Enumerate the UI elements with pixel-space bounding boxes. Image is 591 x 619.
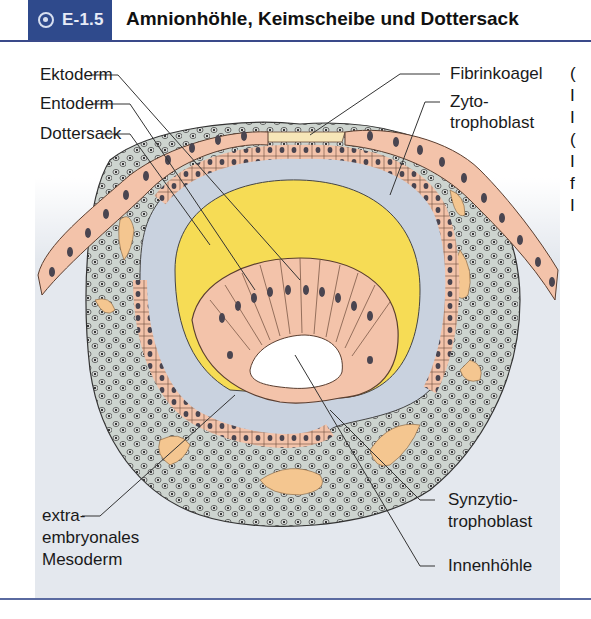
side-text-fragment: f [570,174,575,194]
label-zyto-trophoblast: trophoblast [450,113,534,133]
side-text-fragment: ( [570,130,576,150]
label-synzytio-trophoblast: trophoblast [448,512,532,532]
label-mesoderm: Mesoderm [42,550,122,570]
footer-divider [0,598,591,600]
label-ektoderm: Ektoderm [40,65,113,85]
label-entoderm: Entoderm [40,94,114,114]
fibrin-coagulum [265,132,345,142]
label-fibrinkoagel: Fibrinkoagel [450,64,543,84]
side-text-fragment: I [570,196,575,216]
side-text-fragment: I [570,108,575,128]
label-embryonales: embryonales [42,528,139,548]
label-synzytio: Synzytio- [448,490,518,510]
side-text-fragment: I [570,86,575,106]
side-text-fragment: I [570,152,575,172]
label-innenhoehle: Innenhöhle [448,556,532,576]
label-zyto: Zyto- [450,92,489,112]
side-text-fragment: ( [570,64,576,84]
label-dottersack: Dottersack [40,124,121,144]
label-extra: extra- [42,506,85,526]
